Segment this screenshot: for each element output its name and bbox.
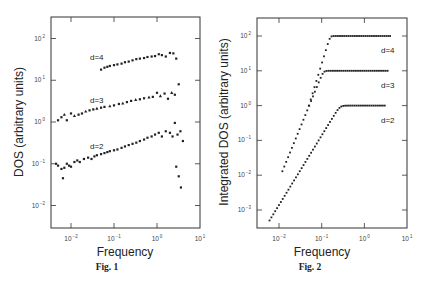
- data-point: [175, 166, 177, 168]
- data-point: [370, 70, 372, 72]
- data-point: [384, 35, 386, 37]
- y-tick-label: 102: [34, 34, 45, 42]
- data-point: [154, 55, 156, 57]
- y-tick-label: 10−1: [32, 159, 46, 167]
- data-point: [312, 92, 314, 94]
- data-point: [304, 114, 306, 116]
- data-point: [387, 35, 389, 37]
- data-point: [178, 83, 180, 85]
- data-point: [318, 140, 320, 142]
- data-point: [320, 136, 322, 138]
- data-point: [93, 155, 95, 157]
- data-point: [128, 144, 130, 146]
- data-point: [103, 152, 105, 154]
- fig2-label-d3: d=3: [381, 81, 395, 90]
- data-point: [297, 133, 299, 135]
- data-point: [287, 156, 289, 158]
- data-point: [319, 68, 321, 70]
- data-point: [363, 35, 365, 37]
- data-point: [295, 176, 297, 178]
- data-point: [303, 164, 305, 166]
- data-point: [146, 137, 148, 139]
- data-point: [384, 105, 386, 107]
- data-point: [146, 56, 148, 58]
- y-tick-label: 10−2: [238, 170, 252, 178]
- data-point: [331, 118, 333, 120]
- data-point: [83, 158, 85, 160]
- data-point: [356, 70, 358, 72]
- data-point: [366, 70, 368, 72]
- data-point: [131, 59, 133, 61]
- data-point: [376, 105, 378, 107]
- data-point: [116, 148, 118, 150]
- data-point: [373, 70, 375, 72]
- data-point: [128, 60, 130, 62]
- data-point: [143, 97, 145, 99]
- data-point: [316, 80, 318, 82]
- data-point: [368, 70, 370, 72]
- data-point: [339, 70, 341, 72]
- x-tick-label: 10−2: [64, 234, 78, 242]
- data-point: [329, 70, 331, 72]
- data-point: [66, 119, 68, 121]
- data-point: [283, 166, 285, 168]
- data-point: [382, 35, 384, 37]
- data-point: [357, 35, 359, 37]
- data-point: [367, 105, 369, 107]
- data-point: [55, 163, 57, 165]
- data-point: [100, 107, 102, 109]
- data-point: [175, 58, 177, 60]
- data-point: [280, 201, 282, 203]
- data-point: [174, 122, 176, 124]
- data-point: [113, 64, 115, 66]
- data-point: [284, 195, 286, 197]
- data-point: [387, 70, 389, 72]
- data-point: [341, 70, 343, 72]
- data-point: [323, 130, 325, 132]
- data-point: [288, 189, 290, 191]
- data-point: [385, 35, 387, 37]
- x-tick-label: 10−1: [315, 234, 329, 242]
- data-point: [68, 165, 70, 167]
- data-point: [380, 105, 382, 107]
- data-point: [161, 135, 163, 137]
- data-point: [374, 105, 376, 107]
- x-tick-label: 10−2: [272, 234, 286, 242]
- data-point: [88, 109, 90, 111]
- data-point: [333, 35, 335, 37]
- data-point: [103, 67, 105, 69]
- data-point: [354, 105, 356, 107]
- fig1-label-d4: d=4: [90, 53, 104, 62]
- data-point: [335, 70, 337, 72]
- data-point-triangle: [95, 107, 98, 110]
- data-point: [364, 70, 366, 72]
- x-tick-label: 100: [359, 234, 370, 242]
- fig1-x-axis-title: Frequency: [97, 245, 154, 259]
- data-point: [295, 138, 297, 140]
- data-point: [338, 35, 340, 37]
- y-tick-label: 100: [240, 101, 251, 109]
- data-point: [103, 106, 105, 108]
- data-point: [378, 105, 380, 107]
- data-point: [378, 35, 380, 37]
- data-point: [151, 55, 153, 57]
- data-point-triangle: [108, 104, 111, 107]
- fig1-caption: Fig. 1: [96, 262, 119, 272]
- data-point: [327, 70, 329, 72]
- data-point: [272, 213, 274, 215]
- data-point: [178, 175, 180, 177]
- y-tick-label: 102: [240, 31, 251, 39]
- data-point: [271, 216, 273, 218]
- fig2-y-axis-title: Integrated DOS (arbitrary units): [217, 38, 231, 205]
- data-point: [299, 128, 301, 130]
- data-point: [310, 99, 312, 101]
- data-point: [327, 43, 329, 45]
- data-point: [113, 104, 115, 106]
- data-point: [124, 61, 126, 63]
- data-point: [303, 119, 305, 121]
- data-point: [374, 35, 376, 37]
- data-point: [109, 65, 111, 67]
- data-point: [345, 70, 347, 72]
- data-point: [324, 71, 326, 73]
- data-point: [354, 70, 356, 72]
